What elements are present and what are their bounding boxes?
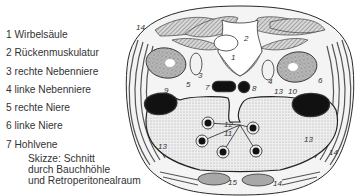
label-12: 12 bbox=[224, 120, 233, 129]
label-5: 5 bbox=[186, 80, 191, 89]
legend-item-rechte-niere: 5 rechte Niere bbox=[6, 99, 124, 117]
legend-item-wirbelsaeule: 1 Wirbelsäule bbox=[6, 26, 124, 44]
legend-item-linke-nebenniere: 4 linke Nebenniere bbox=[6, 81, 124, 99]
legend-item-rueckenmuskulatur: 2 Rückenmuskulatur bbox=[6, 44, 124, 62]
legend-item-rechte-nebenniere: 3 rechte Nebenniere bbox=[6, 63, 124, 81]
label-13a: 13 bbox=[274, 87, 283, 96]
left-colon bbox=[293, 94, 329, 116]
right-colon bbox=[145, 94, 176, 114]
label-8: 8 bbox=[252, 84, 257, 93]
aorta bbox=[239, 82, 249, 92]
vena-cava bbox=[213, 82, 235, 91]
label-4: 4 bbox=[268, 77, 273, 86]
label-6: 6 bbox=[318, 76, 323, 85]
label-2: 2 bbox=[243, 34, 249, 43]
label-10: 10 bbox=[288, 87, 297, 96]
label-3: 3 bbox=[198, 71, 203, 80]
label-14a: 14 bbox=[136, 23, 145, 32]
legend: 1 Wirbelsäule 2 Rückenmuskulatur 3 recht… bbox=[6, 26, 124, 154]
label-14b: 14 bbox=[329, 148, 338, 157]
label-13b: 13 bbox=[158, 142, 167, 151]
label-15: 15 bbox=[228, 178, 237, 187]
label-14c: 14 bbox=[273, 179, 282, 188]
label-11: 11 bbox=[224, 129, 232, 138]
cross-section-diagram: 1 2 3 4 5 6 7 8 9 10 11 12 13 13 13 14 1… bbox=[118, 0, 360, 196]
legend-item-hohlvene: 7 Hohlvene bbox=[6, 136, 124, 154]
label-9: 9 bbox=[164, 86, 169, 95]
left-rectus-muscle bbox=[242, 174, 274, 186]
label-7: 7 bbox=[205, 83, 210, 92]
label-1: 1 bbox=[231, 53, 235, 62]
legend-item-linke-niere: 6 linke Niere bbox=[6, 117, 124, 135]
right-rectus-muscle bbox=[198, 173, 230, 185]
label-13c: 13 bbox=[304, 135, 313, 144]
